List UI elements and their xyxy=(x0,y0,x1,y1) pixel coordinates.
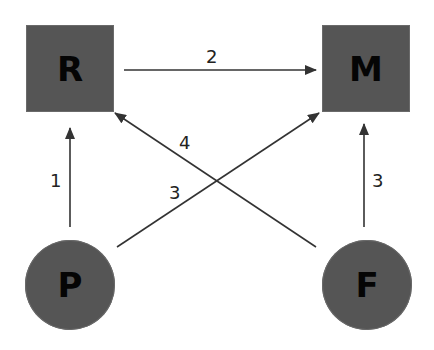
edge-label-p-to-m: 3 xyxy=(169,184,180,202)
node-p-label: P xyxy=(58,265,83,305)
node-f-label: F xyxy=(355,265,378,305)
diagram-canvas: R M P F 2 1 3 4 3 xyxy=(0,0,434,350)
edge-p-to-m xyxy=(117,113,319,247)
edge-f-to-r xyxy=(115,113,316,247)
node-r-label: R xyxy=(57,49,83,89)
edge-label-r-to-m: 2 xyxy=(206,48,217,66)
edge-label-f-to-m: 3 xyxy=(372,172,383,190)
node-m: M xyxy=(322,25,410,112)
node-r: R xyxy=(26,25,114,112)
node-f: F xyxy=(322,240,412,330)
edge-label-f-to-r: 4 xyxy=(179,134,190,152)
node-m-label: M xyxy=(349,49,383,89)
edge-label-p-to-r: 1 xyxy=(50,172,61,190)
node-p: P xyxy=(25,240,115,330)
